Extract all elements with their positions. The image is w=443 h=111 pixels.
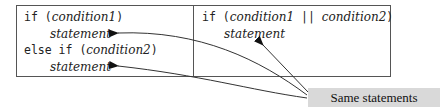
same-statements-label: Same statements — [308, 88, 440, 107]
